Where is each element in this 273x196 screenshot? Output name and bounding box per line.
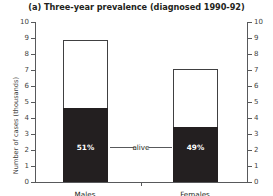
y-tick-mark-left xyxy=(31,22,35,23)
y-tick-mark-right xyxy=(248,134,252,135)
y-tick-label-right: 0 xyxy=(254,179,258,186)
data-label-females-pct: 49% xyxy=(173,143,218,152)
y-tick-mark-left xyxy=(31,38,35,39)
chart-title: (a) Three-year prevalence (diagnosed 199… xyxy=(0,2,273,12)
x-label-males: Males xyxy=(75,190,96,196)
y-tick-mark-left xyxy=(31,150,35,151)
y-tick-mark-right xyxy=(248,54,252,55)
y-tick-label-left: 9 xyxy=(25,35,29,42)
y-tick-mark-left xyxy=(31,134,35,135)
y-tick-label-right: 4 xyxy=(254,115,258,122)
y-tick-label-left: 10 xyxy=(20,19,29,26)
y-tick-mark-right xyxy=(248,22,252,23)
y-tick-mark-left xyxy=(31,70,35,71)
y-tick-mark-right xyxy=(248,38,252,39)
y-tick-mark-left xyxy=(31,118,35,119)
y-axis-title: Number of cases (thousands) xyxy=(12,77,20,174)
y-axis-left-line xyxy=(35,22,36,182)
y-tick-mark-left xyxy=(31,166,35,167)
annotation-alive-label: alive xyxy=(132,143,149,152)
y-tick-mark-right xyxy=(248,166,252,167)
bar-females-alive xyxy=(173,127,218,182)
y-tick-label-left: 2 xyxy=(25,147,29,154)
y-tick-label-right: 8 xyxy=(254,51,258,58)
y-tick-mark-left xyxy=(31,102,35,103)
y-tick-label-right: 9 xyxy=(254,35,258,42)
y-tick-mark-right xyxy=(248,150,252,151)
y-tick-mark-right xyxy=(248,118,252,119)
y-tick-mark-right xyxy=(248,86,252,87)
x-tick-center xyxy=(141,182,142,186)
y-tick-mark-left xyxy=(31,86,35,87)
y-tick-label-left: 1 xyxy=(25,163,29,170)
y-tick-mark-left xyxy=(31,182,35,183)
y-tick-label-left: 6 xyxy=(25,83,29,90)
y-tick-label-left: 7 xyxy=(25,67,29,74)
y-tick-label-right: 10 xyxy=(254,19,263,26)
y-tick-label-right: 7 xyxy=(254,67,258,74)
y-tick-label-left: 0 xyxy=(25,179,29,186)
annotation-leader-left xyxy=(110,147,134,148)
y-tick-label-left: 8 xyxy=(25,51,29,58)
chart-figure: (a) Three-year prevalence (diagnosed 199… xyxy=(0,0,273,196)
y-tick-label-left: 4 xyxy=(25,115,29,122)
y-tick-label-right: 2 xyxy=(254,147,258,154)
y-tick-mark-right xyxy=(248,182,252,183)
y-tick-mark-left xyxy=(31,54,35,55)
x-label-females: Females xyxy=(180,190,210,196)
y-tick-label-right: 1 xyxy=(254,163,258,170)
data-label-males-pct: 51% xyxy=(63,143,108,152)
y-tick-mark-right xyxy=(248,70,252,71)
annotation-leader-right xyxy=(149,147,172,148)
y-tick-label-left: 3 xyxy=(25,131,29,138)
plot-area: Number of cases (thousands) 001122334455… xyxy=(35,22,248,182)
y-tick-label-right: 5 xyxy=(254,99,258,106)
y-tick-label-left: 5 xyxy=(25,99,29,106)
y-tick-mark-right xyxy=(248,102,252,103)
y-tick-label-right: 3 xyxy=(254,131,258,138)
y-tick-label-right: 6 xyxy=(254,83,258,90)
